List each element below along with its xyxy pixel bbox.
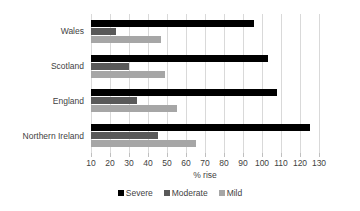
x-tick-label: 100 [255,158,269,168]
legend-item-severe[interactable]: Severe [118,188,153,198]
chart-legend: SevereModerateMild [0,188,360,198]
x-tick-label: 80 [219,158,228,168]
x-tick-mark [91,153,92,157]
bar-scotland-moderate [91,63,129,70]
x-tick-mark [148,153,149,157]
x-tick-label: 60 [181,158,190,168]
x-tick-label: 130 [312,158,326,168]
category-label: Northern Ireland [23,131,84,141]
bar-northern-ireland-moderate [91,132,158,139]
x-tick-mark [243,153,244,157]
category-label: Scotland [51,61,84,71]
x-tick-label: 90 [238,158,247,168]
x-tick-label: 70 [200,158,209,168]
category-label: Wales [61,26,84,36]
x-tick-mark [129,153,130,157]
x-tick-mark [224,153,225,157]
x-axis-title: % rise [91,170,319,180]
x-tick-label: 20 [105,158,114,168]
legend-item-mild[interactable]: Mild [219,188,243,198]
legend-label: Moderate [172,188,208,198]
plot-area [91,14,319,153]
bar-chart: WalesScotlandEnglandNorthern Ireland 102… [0,0,360,211]
bar-group [91,84,319,119]
x-tick-label: 30 [124,158,133,168]
category-label: England [53,96,84,106]
legend-label: Severe [126,188,153,198]
x-tick-label: 50 [162,158,171,168]
legend-label: Mild [227,188,243,198]
bar-wales-severe [91,20,254,27]
x-tick-mark [300,153,301,157]
x-axis: 102030405060708090100110120130 [91,153,319,169]
bar-group [91,118,319,153]
x-tick-mark [186,153,187,157]
bar-northern-ireland-severe [91,124,310,131]
x-tick-label: 10 [86,158,95,168]
bar-scotland-severe [91,55,268,62]
legend-item-moderate[interactable]: Moderate [164,188,208,198]
bar-wales-mild [91,36,161,43]
legend-swatch-icon [118,190,124,196]
gridline [319,14,320,153]
legend-swatch-icon [164,190,170,196]
bar-group [91,14,319,49]
x-tick-mark [262,153,263,157]
legend-swatch-icon [219,190,225,196]
x-tick-mark [281,153,282,157]
x-tick-mark [319,153,320,157]
bar-england-moderate [91,97,137,104]
x-tick-mark [110,153,111,157]
x-tick-label: 110 [274,158,288,168]
bar-wales-moderate [91,28,116,35]
bar-england-mild [91,105,177,112]
bar-group [91,49,319,84]
x-tick-label: 120 [293,158,307,168]
bar-scotland-mild [91,71,165,78]
x-tick-mark [167,153,168,157]
bar-northern-ireland-mild [91,140,196,147]
x-tick-mark [205,153,206,157]
x-tick-label: 40 [143,158,152,168]
category-axis-labels: WalesScotlandEnglandNorthern Ireland [0,14,88,153]
bar-england-severe [91,89,277,96]
